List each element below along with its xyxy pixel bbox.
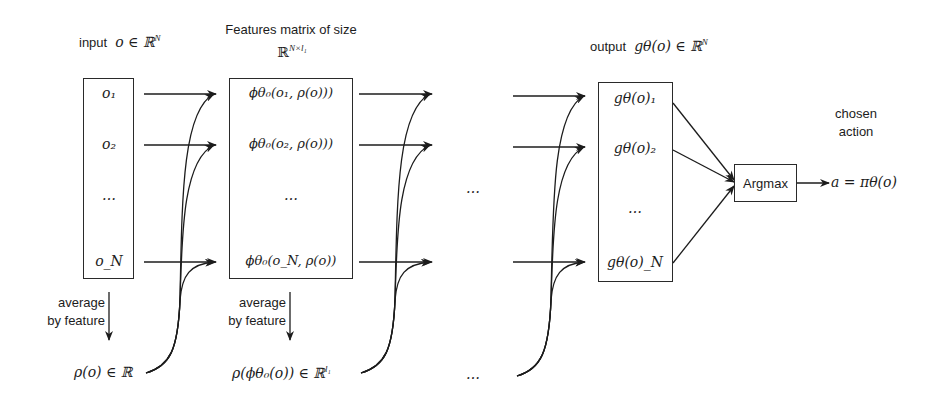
input-item-2: o₂ xyxy=(102,136,116,152)
average-label-2: average by feature xyxy=(226,294,286,330)
average-label-1-line2: by feature xyxy=(45,312,105,330)
features-title-line2: ℝN×l₁ xyxy=(277,43,306,61)
chosen-action-line1: chosen xyxy=(835,105,877,123)
average-label-1-line1: average xyxy=(45,294,105,312)
pooled-input: ρ(o) ∈ ℝ xyxy=(74,364,132,380)
input-label: input o ∈ ℝN xyxy=(79,33,161,51)
pooled-features: ρ(ϕθ₀(o)) ∈ ℝl₁ xyxy=(232,364,331,382)
middle-ellipsis-top: … xyxy=(466,180,480,196)
input-item-n: o_N xyxy=(95,253,123,269)
output-item-ellipsis: … xyxy=(628,200,642,216)
feature-item-ellipsis: … xyxy=(284,187,298,203)
output-vector-box xyxy=(598,82,673,282)
connector-lines xyxy=(0,0,937,405)
argmax-box: Argmax xyxy=(734,164,797,202)
output-label-math: gθ(o) ∈ ℝ xyxy=(634,38,702,54)
pooled-features-math: ρ(ϕθ₀(o)) ∈ ℝ xyxy=(232,365,325,381)
argmax-label: Argmax xyxy=(743,176,788,191)
diagram-canvas: input o ∈ ℝN o₁ o₂ … o_N Features matrix… xyxy=(0,0,937,405)
input-label-sup: N xyxy=(155,33,161,43)
features-title-line1: Features matrix of size xyxy=(225,22,357,37)
input-vector-box xyxy=(83,78,134,279)
output-label-text: output xyxy=(590,39,626,54)
output-item-n: gθ(o)_N xyxy=(607,254,663,270)
pooled-features-sup: l₁ xyxy=(325,364,331,374)
feature-item-2: ϕθ₀(o₂, ρ(o))) xyxy=(249,136,333,151)
feature-item-n: ϕθ₀(o_N, ρ(o)) xyxy=(246,253,337,268)
chosen-action-label: chosen action xyxy=(835,105,877,141)
input-item-ellipsis: … xyxy=(102,187,116,203)
average-label-1: average by feature xyxy=(45,294,105,330)
input-item-1: o₁ xyxy=(102,85,116,101)
output-label: output gθ(o) ∈ ℝN xyxy=(590,37,708,55)
features-title-sup: N×l₁ xyxy=(289,43,307,53)
feature-item-1: ϕθ₀(o₁, ρ(o))) xyxy=(249,85,333,100)
output-label-sup: N xyxy=(702,37,708,47)
average-label-2-line1: average xyxy=(226,294,286,312)
features-matrix-box xyxy=(229,78,353,279)
output-item-2: gθ(o)₂ xyxy=(614,140,656,156)
action-formula: a = πθ(o) xyxy=(831,174,897,190)
input-label-math: o ∈ ℝ xyxy=(115,34,154,50)
features-title-math: ℝ xyxy=(277,44,289,60)
middle-ellipsis-bottom: … xyxy=(466,366,480,382)
input-label-text: input xyxy=(79,35,107,50)
average-label-2-line2: by feature xyxy=(226,312,286,330)
output-item-1: gθ(o)₁ xyxy=(614,90,656,106)
chosen-action-line2: action xyxy=(835,123,877,141)
